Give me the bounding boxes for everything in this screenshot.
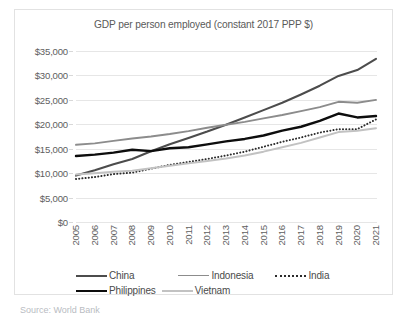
y-axis-label: $0 [58,217,68,228]
y-axis-label: $5,000 [40,192,68,203]
x-axis: 2005200620072008200920102011201220132014… [76,223,377,267]
x-axis-label: 2010 [165,225,175,246]
legend-row: ChinaIndonesiaIndia [76,268,386,283]
x-axis-label: 2005 [71,225,81,246]
y-axis-tick [69,222,73,223]
plot-area [76,51,377,222]
x-axis-label: 2009 [146,225,156,246]
legend-item-indonesia[interactable]: Indonesia [178,270,253,281]
chart-legend: ChinaIndonesiaIndiaPhilippinesVietnam [76,268,386,298]
x-axis-label: 2018 [315,225,325,246]
legend-swatch-china [76,275,107,277]
x-axis-label: 2021 [371,225,381,246]
y-axis-label: $20,000 [35,119,68,130]
chart-card: GDP per person employed (constant 2017 P… [14,9,393,295]
y-axis-label: $10,000 [35,168,68,179]
legend-item-vietnam[interactable]: Vietnam [162,285,230,296]
y-axis-label: $15,000 [35,143,68,154]
y-axis-tick [69,75,73,76]
legend-swatch-philippines [76,290,107,292]
series-line-indonesia [76,100,376,145]
x-axis-label: 2011 [184,225,194,245]
legend-label: Vietnam [195,285,230,296]
x-axis-label: 2008 [127,225,137,246]
x-axis-label: 2006 [90,225,100,246]
legend-item-india[interactable]: India [275,270,329,281]
x-axis-label: 2014 [240,225,250,246]
y-axis-label: $35,000 [35,46,68,57]
y-axis-tick [69,149,73,150]
legend-label: Indonesia [211,270,253,281]
series-lines [76,51,377,222]
legend-label: India [308,270,329,281]
legend-row: PhilippinesVietnam [76,283,386,298]
y-axis-tick [69,173,73,174]
legend-label: China [109,270,134,281]
legend-label: Philippines [109,285,156,296]
y-axis-tick [69,51,73,52]
x-axis-label: 2020 [352,225,362,246]
source-note-label: Source: World Bank [20,306,190,315]
x-axis-label: 2015 [259,225,269,246]
x-axis-label: 2016 [277,225,287,246]
chart-title: GDP per person employed (constant 2017 P… [15,19,392,30]
legend-swatch-vietnam [162,290,193,292]
y-axis-tick [69,124,73,125]
y-axis: $35,000$30,000$25,000$20,000$15,000$10,0… [15,51,73,222]
legend-swatch-india [275,275,306,277]
y-axis-label: $25,000 [35,94,68,105]
legend-item-china[interactable]: China [76,270,134,281]
x-axis-label: 2013 [221,225,231,246]
y-axis-label: $30,000 [35,70,68,81]
source-note: Source: World Bank [20,306,190,315]
legend-swatch-indonesia [178,275,209,276]
y-axis-tick [69,198,73,199]
x-axis-label: 2007 [109,225,119,246]
y-axis-tick [69,100,73,101]
x-axis-label: 2019 [334,225,344,246]
x-axis-label: 2017 [296,225,306,246]
legend-item-philippines[interactable]: Philippines [76,285,156,296]
x-axis-label: 2012 [202,225,212,246]
series-line-india [76,119,376,179]
